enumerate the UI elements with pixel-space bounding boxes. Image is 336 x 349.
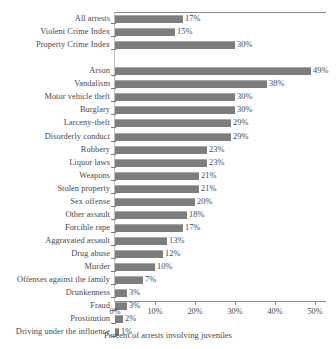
category-tick-mark [111, 88, 116, 89]
bar-row: Motor vehicle theft30% [0, 92, 336, 105]
bar [115, 159, 207, 167]
bar-row: Forcible rape17% [0, 223, 336, 236]
category-label: Vandalism [0, 78, 110, 89]
bar-value-label: 30% [237, 91, 252, 102]
bar-value-label: 20% [197, 196, 212, 207]
bar [115, 41, 235, 49]
bar-value-label: 21% [201, 183, 216, 194]
category-tick-mark [111, 167, 116, 168]
category-tick-mark [111, 245, 116, 246]
bar-row: Other assault18% [0, 210, 336, 223]
bar [115, 67, 311, 75]
category-label: Other assault [0, 209, 110, 220]
category-label: Disorderly conduct [0, 131, 110, 142]
category-tick-mark [111, 141, 116, 142]
bar-row: Property Crime Index30% [0, 40, 336, 53]
bar-row: Stolen property21% [0, 184, 336, 197]
category-label: Violent Crime Index [0, 26, 110, 37]
bar-row: Disorderly conduct29% [0, 132, 336, 145]
category-label: Murder [0, 261, 110, 272]
category-tick-mark [111, 206, 116, 207]
bar-value-label: 17% [185, 13, 200, 24]
bar [115, 185, 199, 193]
bar [115, 93, 235, 101]
bar [115, 146, 207, 154]
bar-row: Vandalism38% [0, 79, 336, 92]
category-label: Burglary [0, 104, 110, 115]
x-tick-label: 50% [295, 306, 335, 317]
bar [115, 211, 187, 219]
bar-value-label: 7% [145, 274, 156, 285]
category-label: Stolen property [0, 183, 110, 194]
category-label: Sex offense [0, 196, 110, 207]
x-tick-mark [315, 302, 316, 305]
category-tick-mark [111, 114, 116, 115]
x-tick-mark [195, 302, 196, 305]
category-label: Drug abuse [0, 248, 110, 259]
bar-value-label: 3% [129, 287, 140, 298]
category-label: Liquor laws [0, 157, 110, 168]
bar-value-label: 29% [233, 131, 248, 142]
bar [115, 119, 231, 127]
category-label: Fraud [0, 300, 110, 311]
bar-value-label: 23% [209, 157, 224, 168]
bar-value-label: 12% [165, 248, 180, 259]
bar-row: Drunkenness3% [0, 288, 336, 301]
category-tick-mark [111, 297, 116, 298]
bar [115, 289, 127, 297]
x-tick-label: 30% [215, 306, 255, 317]
bar [115, 224, 183, 232]
x-tick-mark [235, 302, 236, 305]
category-tick-mark [111, 23, 116, 24]
bar-value-label: 30% [237, 39, 252, 50]
category-label: Prostitution [0, 313, 110, 324]
x-tick-mark [155, 302, 156, 305]
category-label: Drunkenness [0, 287, 110, 298]
category-label: Arson [0, 65, 110, 76]
bar-value-label: 18% [189, 209, 204, 220]
bar-value-label: 49% [313, 65, 328, 76]
category-tick-mark [111, 154, 116, 155]
bar-row: Drug abuse12% [0, 249, 336, 262]
bar [115, 263, 155, 271]
x-tick-mark [115, 302, 116, 305]
x-axis-title: Percent of arrests involving juveniles [0, 330, 336, 340]
category-label: Aggravated assault [0, 235, 110, 246]
category-tick-mark [111, 258, 116, 259]
bar-row: Sex offense20% [0, 197, 336, 210]
bar-row: Larceny-theft29% [0, 118, 336, 131]
bar-row: Aggravated assault13% [0, 236, 336, 249]
category-tick-mark [111, 219, 116, 220]
top-axis-rule [115, 12, 326, 13]
category-label: Robbery [0, 144, 110, 155]
category-tick-mark [111, 323, 116, 324]
bar-chart: All arrests17%Violent Crime Index15%Prop… [0, 0, 336, 349]
category-tick-mark [111, 271, 116, 272]
category-tick-mark [111, 284, 116, 285]
bar [115, 198, 195, 206]
bar-row: Murder10% [0, 262, 336, 275]
bar-row: Violent Crime Index15% [0, 27, 336, 40]
value-axis-line [115, 301, 326, 302]
category-label: All arrests [0, 13, 110, 24]
x-tick-label: 40% [255, 306, 295, 317]
x-tick-label: 20% [175, 306, 215, 317]
bar-row: Robbery23% [0, 145, 336, 158]
bar-value-label: 15% [177, 26, 192, 37]
bar-row: Liquor laws23% [0, 158, 336, 171]
x-tick-label: 10% [135, 306, 175, 317]
bar [115, 250, 163, 258]
bar-row: Weapons21% [0, 171, 336, 184]
category-label: Motor vehicle theft [0, 91, 110, 102]
bar [115, 106, 235, 114]
bar-value-label: 30% [237, 104, 252, 115]
bar [115, 80, 267, 88]
bar-row: Offenses against the family7% [0, 275, 336, 288]
category-tick-mark [111, 193, 116, 194]
x-tick-mark [275, 302, 276, 305]
category-label: Forcible rape [0, 222, 110, 233]
bar-row: All arrests17% [0, 14, 336, 27]
category-tick-mark [111, 127, 116, 128]
x-tick-label: 0% [95, 306, 135, 317]
bar-value-label: 29% [233, 117, 248, 128]
